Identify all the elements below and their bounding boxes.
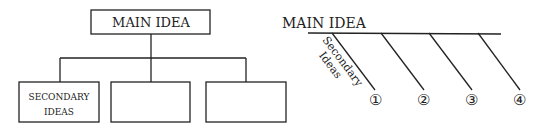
spider-leg-3: [429, 33, 472, 90]
circled-number-3: ③: [465, 91, 478, 109]
circled-number-4: ④: [513, 91, 526, 109]
diagram-canvas: MAIN IDEA SECONDARY IDEAS MAIN IDEA Seco…: [0, 0, 548, 128]
spider-branch-label: Secondary Ideas: [310, 34, 366, 97]
secondary-box-2: [111, 82, 190, 122]
spider-leg-4: [478, 33, 520, 90]
secondary-label-line1: SECONDARY: [28, 92, 90, 102]
secondary-box-3: [206, 82, 286, 122]
circled-number-2: ②: [417, 91, 430, 109]
spider-main-line: [308, 33, 501, 34]
spider-leg-2: [381, 33, 424, 90]
circled-number-1: ①: [369, 91, 382, 109]
spider-main-label: MAIN IDEA: [282, 15, 367, 31]
main-idea-label: MAIN IDEA: [112, 15, 190, 30]
secondary-label-line2: IDEAS: [44, 107, 74, 117]
